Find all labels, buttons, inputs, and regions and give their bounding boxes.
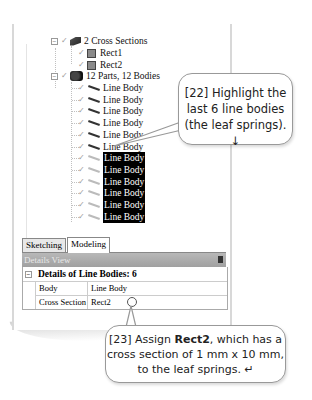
callout-step-22: [22] Highlight the last 6 line bodies (t… [178,73,293,145]
callout-bold-text: Rect2 [174,333,209,346]
callout-23-tail [126,306,136,327]
callout-line: [23] Assign Rect2, which has a [106,332,285,347]
callout-line: to the leaf springs. ↵ [106,362,285,377]
callout-line: last 6 line bodies [179,101,292,117]
callout-line: [22] Highlight the [179,85,292,101]
callout-line: (the leaf springs). ↓ [179,117,292,149]
callout-line: cross section of 1 mm x 10 mm, [106,347,285,362]
callout-text: [23] Assign [109,333,175,346]
callout-step-23: [23] Assign Rect2, which has a cross sec… [105,325,286,383]
callout-text: , which has a [210,333,282,346]
